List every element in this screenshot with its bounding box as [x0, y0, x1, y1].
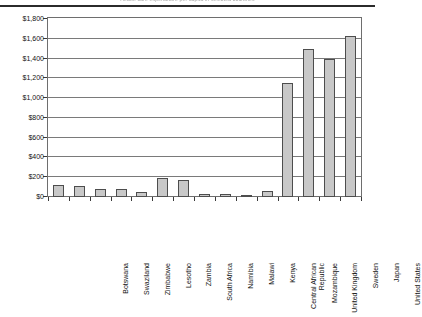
x-axis-tick-label: Swaziland [143, 263, 151, 317]
bar [262, 191, 273, 197]
x-axis-tick-mark [90, 197, 91, 201]
bar [324, 59, 335, 197]
x-axis-tick-label: Sweden [372, 263, 380, 317]
x-axis-tick-mark [69, 197, 70, 201]
bar [136, 192, 147, 197]
y-axis-tick-label: $1,800 [0, 15, 44, 22]
bar [74, 186, 85, 197]
x-axis-tick-label: Zimbabwe [164, 263, 172, 317]
x-axis-tick-mark [48, 197, 49, 201]
x-axis-tick-label: Mozambique [331, 263, 339, 317]
bar [53, 185, 64, 197]
x-axis-tick-mark [152, 197, 153, 201]
x-axis-tick-label: Zambia [205, 263, 213, 317]
bar [303, 49, 314, 197]
x-axis-tick-mark [236, 197, 237, 201]
y-axis-tick-mark [43, 196, 47, 197]
x-axis-tick-label: Japan [393, 263, 401, 317]
bar [220, 194, 231, 197]
bar [199, 194, 210, 197]
x-axis-tick-label: Namibia [247, 263, 255, 317]
x-axis-tick-mark [319, 197, 320, 201]
y-axis-tick-label: $400 [0, 153, 44, 160]
y-axis-tick-label: $600 [0, 134, 44, 141]
x-axis-tick-mark [257, 197, 258, 201]
y-axis-tick-mark [43, 117, 47, 118]
x-axis-tick-mark [173, 197, 174, 201]
bar [241, 195, 252, 197]
bar [116, 189, 127, 197]
x-axis-tick-mark [194, 197, 195, 201]
y-axis-tick-mark [43, 58, 47, 59]
x-axis-tick-label: Malawi [268, 263, 276, 317]
y-axis-tick-mark [43, 137, 47, 138]
bar [345, 36, 356, 197]
x-axis-tick-label: United Kingdom [351, 263, 359, 317]
chart-title: Health care expenditure per capita in se… [0, 0, 375, 2]
x-axis-tick-label: Lesotho [185, 263, 193, 317]
x-axis-tick-mark [278, 197, 279, 201]
x-axis-tick-mark [298, 197, 299, 201]
x-axis-tick-label: United States [414, 263, 422, 317]
y-axis-tick-label: $0 [0, 193, 44, 200]
bar [157, 178, 168, 197]
x-axis-tick-mark [340, 197, 341, 201]
x-axis-tick-label: Central African Republic [310, 263, 325, 317]
x-axis-tick-mark [361, 197, 362, 201]
x-axis-tick-label: South Africa [226, 263, 234, 317]
bars-group [48, 18, 361, 197]
x-axis-tick-mark [215, 197, 216, 201]
y-axis-tick-mark [43, 176, 47, 177]
x-axis-tick-label: Botswana [122, 263, 130, 317]
y-axis-tick-label: $1,000 [0, 94, 44, 101]
y-axis-tick-label: $1,600 [0, 35, 44, 42]
y-axis-tick-mark [43, 18, 47, 19]
x-axis-tick-label: Kenya [289, 263, 297, 317]
y-axis-tick-label: $800 [0, 114, 44, 121]
y-axis-tick-label: $1,400 [0, 55, 44, 62]
bar [95, 189, 106, 197]
bar [282, 83, 293, 197]
bar [178, 180, 189, 197]
y-axis-tick-mark [43, 77, 47, 78]
x-axis-tick-mark [131, 197, 132, 201]
y-axis-tick-mark [43, 97, 47, 98]
y-axis-tick-mark [43, 156, 47, 157]
x-axis-tick-mark [111, 197, 112, 201]
title-divider [0, 5, 375, 7]
y-axis-tick-label: $1,200 [0, 74, 44, 81]
y-axis-tick-mark [43, 38, 47, 39]
y-axis-tick-label: $200 [0, 173, 44, 180]
